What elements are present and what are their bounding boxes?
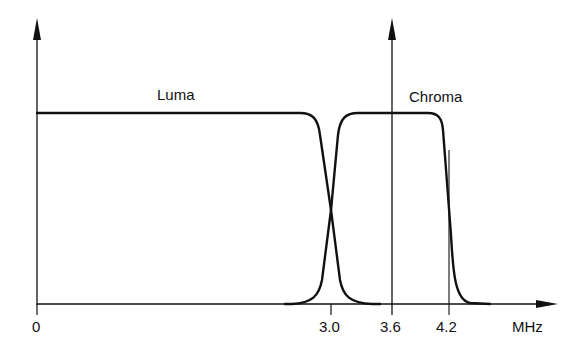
luma-curve [37,113,380,304]
chroma-label: Chroma [409,88,462,105]
tick-label-0: 0 [32,318,40,335]
x-axis-unit: MHz [512,318,543,335]
tick-label-4-2: 4.2 [436,318,457,335]
tick-label-3-6: 3.6 [380,318,401,335]
diagram-graphics [0,0,586,355]
tick-label-3-0: 3.0 [319,318,340,335]
chroma-axis-arrow-icon [388,18,396,40]
luma-label: Luma [157,86,195,103]
diagram-canvas: Luma Chroma 0 3.0 3.6 4.2 MHz [0,0,586,355]
chroma-curve [285,113,490,304]
y-axis-arrow-icon [33,18,41,40]
x-axis-arrow-icon [536,300,558,308]
